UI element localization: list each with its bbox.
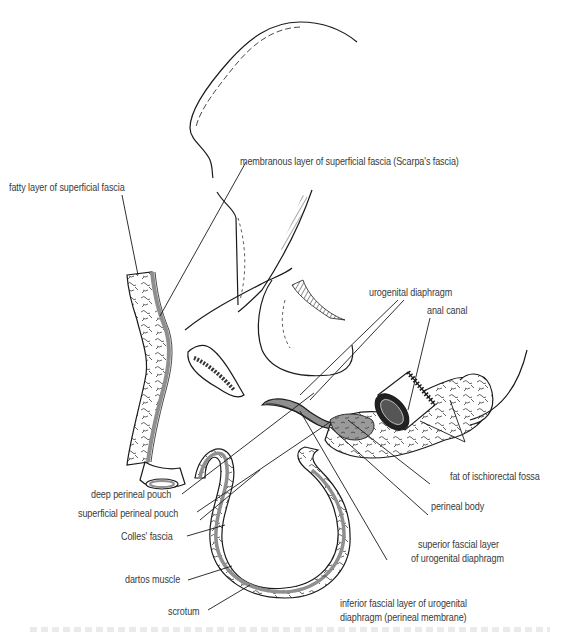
label-urogenital-diaphragm: urogenital diaphragm	[369, 286, 452, 299]
label-inferior-fascial-layer-2: diaphragm (perineal membrane)	[340, 611, 467, 624]
label-anal-canal: anal canal	[427, 304, 467, 317]
label-inferior-fascial-layer-1: inferior fascial layer of urogenital	[340, 597, 467, 610]
artist-mark: vac	[321, 573, 327, 578]
label-perineal-body: perineal body	[431, 500, 484, 513]
label-superior-fascial-layer-2: of urogenital diaphragm	[411, 552, 504, 565]
scrotum-wall: vac	[195, 447, 350, 598]
label-fat-ischiorectal-fossa: fat of ischiorectal fossa	[450, 470, 540, 483]
label-deep-perineal-pouch: deep perineal pouch	[91, 488, 171, 501]
label-membranous-layer: membranous layer of superficial fascia (…	[240, 155, 459, 168]
label-superficial-perineal-pouch: superficial perineal pouch	[78, 507, 178, 520]
caption-text-cutoff	[30, 627, 550, 632]
label-scrotum: scrotum	[168, 605, 200, 618]
label-fatty-layer: fatty layer of superficial fascia	[9, 181, 125, 194]
label-colles-fascia: Colles' fascia	[121, 530, 173, 543]
label-superior-fascial-layer-1: superior fascial layer	[418, 538, 499, 551]
figure-caption-clipped	[0, 626, 569, 632]
penis-cut-section	[188, 346, 244, 397]
label-dartos-muscle: dartos muscle	[125, 573, 180, 586]
abdominal-wall-layers	[127, 272, 185, 489]
